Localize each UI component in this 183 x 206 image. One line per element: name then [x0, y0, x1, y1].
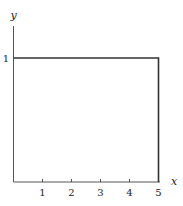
y-tick-label-1: 1: [3, 53, 9, 64]
x-tick-label-2: 2: [68, 187, 74, 198]
y-axis-label: y: [9, 9, 17, 22]
x-axis-label: x: [171, 175, 178, 188]
chart: 1 2 3 4 5 1 x y: [0, 0, 183, 206]
x-tick-label-5: 5: [155, 187, 161, 198]
x-tick-label-4: 4: [126, 187, 132, 198]
x-tick-label-1: 1: [39, 187, 45, 198]
data-series-line: [14, 58, 159, 182]
x-tick-label-3: 3: [97, 187, 103, 198]
